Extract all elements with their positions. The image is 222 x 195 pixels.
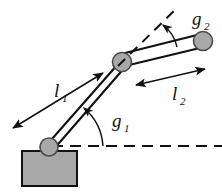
label-g2: g 2 bbox=[192, 8, 210, 32]
link-1-bar bbox=[44, 64, 126, 150]
label-g2-main: g bbox=[192, 8, 202, 29]
end-effector-joint bbox=[194, 32, 213, 51]
label-g1-main: g bbox=[112, 110, 122, 131]
label-l1-main: l bbox=[54, 80, 59, 101]
label-g1: g 1 bbox=[112, 110, 130, 134]
label-l1: l 1 bbox=[54, 80, 68, 104]
label-l2-main: l bbox=[172, 83, 177, 104]
length-l2-dimension-arrow bbox=[136, 69, 205, 85]
label-l2: l 2 bbox=[172, 83, 186, 107]
robot-arm-figure: l 1 l 2 g 1 g 2 bbox=[0, 0, 222, 195]
label-g2-subscript: 2 bbox=[204, 20, 210, 32]
robot-arm-diagram-canvas: l 1 l 2 g 1 g 2 bbox=[0, 0, 222, 195]
label-l2-subscript: 2 bbox=[180, 95, 186, 107]
angle-g1-arc bbox=[84, 108, 103, 146]
shoulder-joint bbox=[40, 138, 58, 156]
label-l1-subscript: 1 bbox=[62, 92, 68, 104]
label-g1-subscript: 1 bbox=[124, 122, 130, 134]
